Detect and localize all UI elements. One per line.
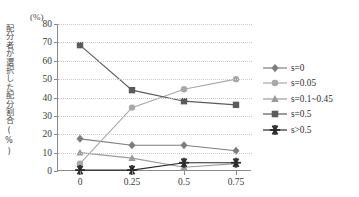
diamond-marker-icon <box>262 61 288 75</box>
data-point-marker <box>76 135 83 143</box>
data-point-marker <box>129 104 135 110</box>
gridline <box>58 24 252 25</box>
y-axis-tick <box>54 61 58 62</box>
x-axis-tick <box>236 171 237 175</box>
y-axis-tick-label: 10 <box>43 148 53 158</box>
legend-item-label: s=0.05 <box>291 78 316 88</box>
y-axis-title: 配分者が選択した配分割合(%) <box>1 24 17 174</box>
y-axis-tick-label: 80 <box>43 19 53 29</box>
y-axis-tick <box>54 134 58 135</box>
gridline <box>58 42 252 43</box>
chart-legend: s=0s=0.05s=0.1~0.45s=0.5s>0.5 <box>262 60 358 138</box>
y-axis-tick-label: 60 <box>43 56 53 66</box>
gridline <box>58 98 252 99</box>
legend-item[interactable]: s=0.1~0.45 <box>262 91 358 107</box>
gridline <box>58 153 252 154</box>
data-point-marker <box>129 87 135 93</box>
y-axis-tick <box>54 98 58 99</box>
circle-marker-icon <box>262 76 288 90</box>
x-axis-tick <box>184 171 185 175</box>
data-point-marker <box>233 102 239 108</box>
series-line <box>80 79 236 164</box>
legend-item[interactable]: s>0.5 <box>262 122 358 138</box>
data-point-marker <box>181 86 187 92</box>
legend-item[interactable]: s=0 <box>262 60 358 76</box>
legend-item[interactable]: s=0.5 <box>262 107 358 123</box>
legend-item-label: s=0.1~0.45 <box>291 94 333 104</box>
series-line <box>80 139 236 151</box>
star-marker-icon <box>262 123 288 137</box>
data-point-marker <box>180 141 187 149</box>
data-point-marker <box>181 98 187 104</box>
legend-item-label: s=0.5 <box>291 109 311 119</box>
series-line <box>80 163 236 170</box>
legend-item-label: s=0 <box>291 63 305 73</box>
x-axis-tick <box>80 171 81 175</box>
y-axis-tick-label: 30 <box>43 111 53 121</box>
x-axis-tick <box>132 171 133 175</box>
triangle-marker-icon <box>262 92 288 106</box>
y-axis-tick <box>54 171 58 172</box>
y-axis-tick-label: 0 <box>47 166 52 176</box>
series-line <box>80 153 236 168</box>
x-axis-tick-label: 0 <box>78 177 83 187</box>
legend-item-label: s>0.5 <box>291 125 311 135</box>
y-axis-tick <box>54 116 58 117</box>
legend-item[interactable]: s=0.05 <box>262 76 358 92</box>
line-chart: 配分者が選択した配分割合(%) (%) 0102030405060708000.… <box>0 0 359 197</box>
gridline <box>58 79 252 80</box>
y-axis-tick-label: 70 <box>43 37 53 47</box>
y-axis-tick <box>54 79 58 80</box>
y-axis-tick-label: 40 <box>43 93 53 103</box>
square-marker-icon <box>262 107 288 121</box>
y-axis-tick-label: 50 <box>43 74 53 84</box>
series-line <box>80 45 236 105</box>
gridline <box>58 134 252 135</box>
y-axis-tick <box>54 153 58 154</box>
gridline <box>58 61 252 62</box>
y-axis-tick <box>54 24 58 25</box>
x-axis-tick-label: 0.5 <box>178 177 190 187</box>
x-axis-tick-label: 0.75 <box>228 177 245 187</box>
y-axis-tick <box>54 42 58 43</box>
plot-area: 0102030405060708000.250.50.75 <box>57 24 251 171</box>
y-axis-unit-label: (%) <box>30 12 44 22</box>
x-axis-tick-label: 0.25 <box>124 177 141 187</box>
gridline <box>58 116 252 117</box>
y-axis-tick-label: 20 <box>43 129 53 139</box>
data-point-marker <box>128 141 135 149</box>
